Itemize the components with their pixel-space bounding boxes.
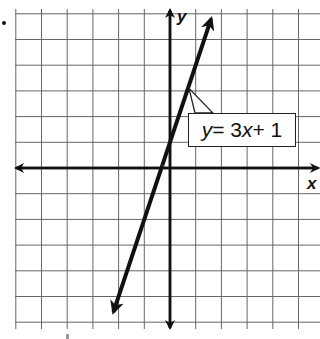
graph-svg bbox=[0, 0, 320, 339]
item-bullet bbox=[2, 21, 6, 25]
equation-callout bbox=[189, 88, 213, 113]
x-axis-label: x bbox=[307, 175, 316, 192]
line-series bbox=[113, 19, 211, 312]
coordinate-plane: y x y = 3x + 1 bbox=[0, 0, 320, 339]
y-axis-label: y bbox=[177, 8, 186, 25]
page-mark bbox=[66, 334, 69, 339]
equation-label: y = 3x + 1 bbox=[188, 113, 296, 147]
equation-mid: = 3 bbox=[212, 118, 242, 142]
equation-y-var: y bbox=[202, 118, 213, 142]
equation-tail: + 1 bbox=[253, 118, 283, 142]
equation-x-var: x bbox=[242, 118, 253, 142]
